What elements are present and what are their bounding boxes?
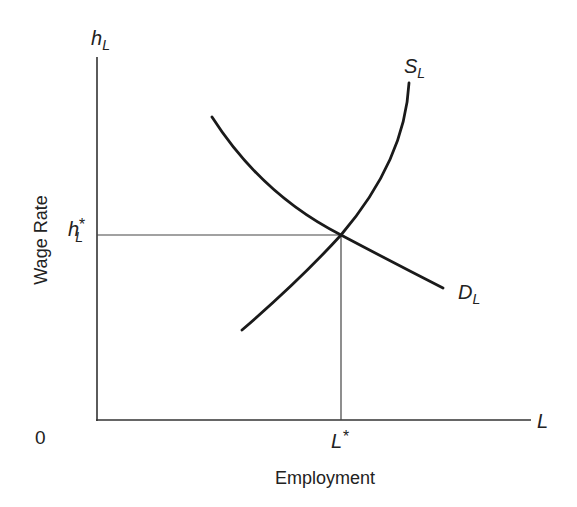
demand-curve-label: DL (458, 281, 480, 307)
supply-curve-label: SL (404, 55, 425, 81)
supply-curve (242, 83, 409, 330)
origin-label: 0 (35, 427, 46, 448)
demand-curve (212, 117, 443, 288)
equilibrium-wage-label: h*L (68, 216, 85, 245)
x-axis-title: Employment (275, 468, 375, 488)
labor-market-diagram: hL L 0 h*L L* SL DL Employment Wage Rate (0, 0, 577, 507)
x-axis-symbol: L (537, 410, 548, 432)
equilibrium-quantity-label: L* (331, 428, 349, 452)
y-axis-title: Wage Rate (31, 195, 51, 284)
y-axis-symbol: hL (91, 27, 110, 53)
